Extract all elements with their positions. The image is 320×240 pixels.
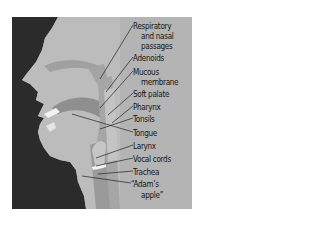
label-soft-palate: Soft palate <box>133 89 169 99</box>
label-tonsils: Tonsils <box>133 114 155 124</box>
label-larynx: Larynx <box>133 141 156 151</box>
label-vocal-cords: Vocal cords <box>133 154 171 164</box>
label-adams: “Adam’s <box>131 179 159 189</box>
label-membrane: membrane <box>141 77 178 87</box>
label-passages: passages <box>141 41 172 51</box>
label-adenoids: Adenoids <box>133 53 164 63</box>
label-pharynx: Pharynx <box>133 102 160 112</box>
label-trachea: Trachea <box>133 167 159 177</box>
label-apple: apple” <box>141 190 163 200</box>
label-tongue: Tongue <box>133 128 157 138</box>
